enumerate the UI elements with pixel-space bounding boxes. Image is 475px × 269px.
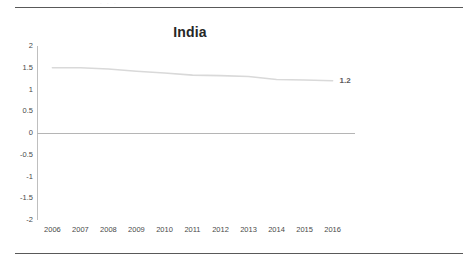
page-bottom-rule (15, 253, 463, 254)
x-axis-tick-label: 2016 (324, 226, 341, 234)
y-axis-tick-label: -2 (3, 216, 33, 224)
series-end-data-label: 1.2 (340, 77, 351, 85)
y-axis-tick-label: 2 (3, 42, 33, 50)
x-axis-tick-label: 2008 (100, 226, 117, 234)
x-axis-tick-label: 2015 (296, 226, 313, 234)
series-line-india (52, 68, 332, 81)
x-axis-tick-label: 2012 (212, 226, 229, 234)
line-chart-figure: India 21.510.50-0.5-1-1.5-2 200620072008… (0, 10, 475, 250)
x-axis-tick-label: 2007 (72, 226, 89, 234)
x-axis-tick-label: 2009 (128, 226, 145, 234)
x-axis-tick-label: 2006 (44, 226, 61, 234)
x-axis-tick-label: 2011 (184, 226, 200, 234)
x-axis-tick-label: 2013 (240, 226, 257, 234)
page-top-rule (15, 7, 463, 8)
y-axis-tick-label: -0.5 (3, 151, 33, 159)
y-axis-tick-label: 0 (3, 129, 33, 137)
x-axis-tick-label: 2014 (268, 226, 285, 234)
y-axis-tick-label: 1.5 (3, 64, 33, 72)
y-axis-tick-label: -1 (3, 173, 33, 181)
faint-page-header: · · · (100, 0, 360, 6)
chart-title: India (0, 24, 380, 40)
y-axis-tick-label: 0.5 (3, 108, 33, 116)
y-axis-tick-label: 1 (3, 86, 33, 94)
series-plot-area (37, 46, 355, 220)
x-axis-tick-labels: 2006200720082009201020112012201320142015… (37, 226, 355, 240)
x-axis-tick-label: 2010 (156, 226, 173, 234)
y-axis-tick-label: -1.5 (3, 195, 33, 203)
y-axis-tick-labels: 21.510.50-0.5-1-1.5-2 (0, 46, 33, 220)
